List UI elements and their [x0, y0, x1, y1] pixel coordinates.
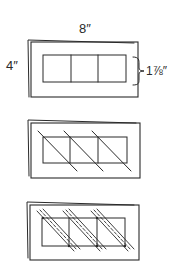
panel-3-diagonals — [37, 209, 134, 251]
width-label: 8″ — [79, 22, 91, 35]
height-label: 4″ — [6, 59, 18, 72]
mat-cutting-diagram — [0, 0, 184, 273]
panel-2-board — [28, 120, 140, 178]
window-height-label: 1⅞″ — [146, 65, 167, 77]
panel-1-window — [43, 55, 126, 82]
panel-1-board — [28, 40, 138, 97]
panel-2-window — [43, 137, 127, 163]
panel-3-window — [42, 218, 125, 246]
panel-3-board — [27, 202, 139, 260]
